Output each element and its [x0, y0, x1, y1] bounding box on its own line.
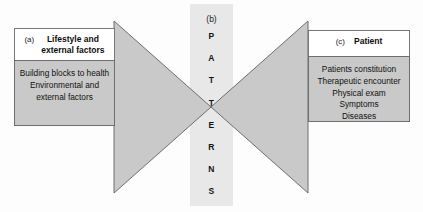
left-panel-header: (a) Lifestyle and external factors — [14, 28, 115, 60]
pattern-letter: E — [208, 121, 214, 130]
pattern-letter: P — [208, 32, 214, 41]
right-panel-header: (c) Patient — [308, 30, 410, 56]
right-panel-item: Physical exam — [313, 88, 405, 100]
right-panel-tag: (c) — [336, 36, 345, 46]
left-panel-item: external factors — [19, 92, 110, 104]
right-panel-item: Therapeutic encounter — [313, 76, 405, 88]
right-panel-title: Patient — [354, 36, 382, 47]
diagram-canvas: (b) P A T T E R N S (a) Lifestyle and ex… — [0, 0, 423, 212]
left-panel: (a) Lifestyle and external factors Build… — [14, 28, 115, 126]
pattern-letter: A — [208, 54, 215, 63]
pattern-letter: T — [209, 99, 215, 108]
right-panel: (c) Patient Patients constitution Therap… — [308, 30, 410, 122]
center-band-tag: (b) — [190, 14, 233, 24]
left-panel-tag: (a) — [24, 34, 34, 44]
right-panel-body: Patients constitution Therapeutic encoun… — [308, 56, 410, 122]
right-panel-item: Diseases — [313, 111, 405, 123]
pattern-letter: R — [208, 143, 215, 152]
left-panel-title-line1: Lifestyle and — [47, 34, 99, 44]
right-panel-item: Symptoms — [313, 99, 405, 111]
pattern-letter: N — [208, 165, 215, 174]
right-panel-title-line1: Patient — [354, 36, 382, 46]
right-panel-item: Patients constitution — [313, 64, 405, 76]
left-panel-title-line2: external factors — [41, 45, 104, 55]
patterns-letters: P A T T E R N S — [190, 32, 233, 196]
left-panel-item: Environmental and — [19, 80, 110, 92]
pattern-letter: S — [208, 187, 214, 196]
left-panel-title: Lifestyle and external factors — [41, 34, 104, 56]
left-panel-body: Building blocks to health Environmental … — [14, 60, 115, 126]
left-panel-item: Building blocks to health — [19, 68, 110, 80]
pattern-letter: T — [209, 76, 215, 85]
